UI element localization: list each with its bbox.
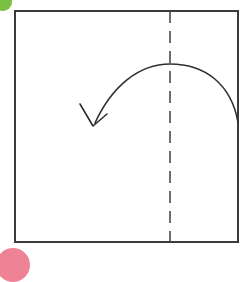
paper-square	[15, 11, 238, 242]
corner-marker-pink-icon	[0, 248, 30, 282]
